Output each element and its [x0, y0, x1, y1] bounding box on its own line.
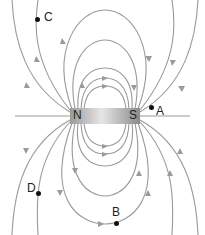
field-arrows [23, 38, 185, 227]
point-d [36, 191, 41, 196]
field-diagram [0, 0, 205, 235]
point-a [149, 105, 154, 110]
north-pole-label: N [73, 108, 82, 122]
point-a-label: A [156, 104, 164, 118]
point-c-label: C [44, 10, 53, 24]
point-d-label: D [27, 181, 36, 195]
point-b [114, 221, 119, 226]
point-c [35, 17, 40, 22]
point-b-label: B [112, 205, 120, 219]
upper-field-lines [12, 0, 198, 112]
lower-field-lines [12, 120, 198, 235]
south-pole-label: S [129, 108, 137, 122]
